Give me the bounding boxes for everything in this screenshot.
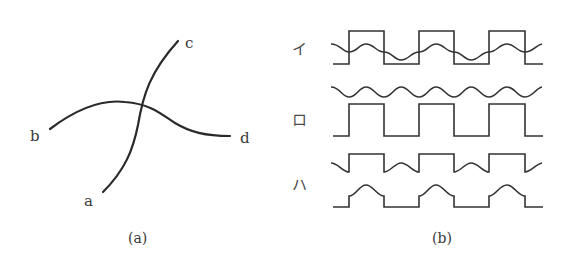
wave-ro-square	[333, 104, 543, 136]
figure-canvas: b c d a (a) イ ロ ハ (b)	[0, 0, 564, 262]
label-b: b	[30, 127, 40, 145]
panel-a: b c d a (a)	[30, 34, 250, 246]
wave-ro-sine	[331, 87, 542, 97]
wave-ha-bottom	[333, 185, 543, 207]
label-a: a	[84, 192, 93, 210]
caption-b: (b)	[432, 230, 452, 246]
wave-i-sine	[331, 44, 542, 60]
row-label-ro: ロ	[292, 111, 307, 129]
row-label-i: イ	[292, 40, 307, 58]
label-d: d	[240, 129, 250, 147]
wave-ha-top	[331, 154, 542, 172]
wave-i-square	[333, 31, 543, 64]
row-label-ha: ハ	[292, 176, 307, 194]
caption-a: (a)	[128, 230, 147, 246]
panel-b: イ ロ ハ (b)	[292, 31, 543, 246]
label-c: c	[185, 34, 193, 52]
